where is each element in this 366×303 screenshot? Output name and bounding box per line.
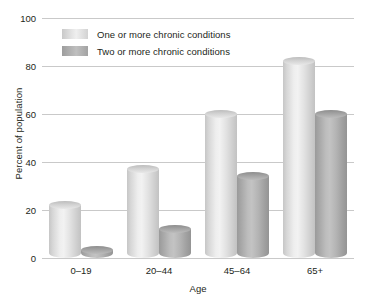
bar-cap [81,246,113,254]
x-axis-line [42,258,354,259]
y-tick-label: 40 [0,157,36,168]
legend-swatch-icon [62,29,88,39]
x-tick-label: 20–44 [119,265,199,276]
bar [81,250,113,258]
bar [237,176,269,258]
bar [159,229,191,258]
bar-body [159,229,191,258]
legend-label: One or more chronic conditions [97,29,231,40]
bar-body [283,61,315,258]
bar-body [127,169,159,258]
bar-group [283,18,347,258]
bar [315,114,347,258]
bar [127,169,159,258]
legend-item: Two or more chronic conditions [62,44,231,58]
x-tick-label: 45–64 [197,265,277,276]
x-tick-label: 0–19 [41,265,121,276]
bar-cap [205,110,237,118]
bar-body [237,176,269,258]
bar [49,205,81,258]
legend-label: Two or more chronic conditions [97,46,230,57]
y-tick-label: 0 [0,253,36,264]
bar-cap [315,110,347,118]
legend-swatch-icon [62,46,88,56]
bar-body [315,114,347,258]
chronic-conditions-bar-chart: Percent of population 100806040200 0–192… [0,0,366,303]
y-tick-label: 100 [0,13,36,24]
y-tick-label: 60 [0,109,36,120]
bar-body [49,205,81,258]
y-tick-label: 20 [0,205,36,216]
chart-legend: One or more chronic conditionsTwo or mor… [62,27,231,61]
bar [283,61,315,258]
legend-item: One or more chronic conditions [62,27,231,41]
bar-body [205,114,237,258]
y-tick-label: 80 [0,61,36,72]
bar [205,114,237,258]
x-tick-label: 65+ [275,265,355,276]
x-axis-title: Age [42,283,354,294]
